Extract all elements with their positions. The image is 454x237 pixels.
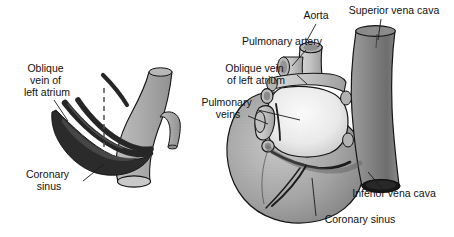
svc-top-opening — [356, 26, 396, 37]
label-line: Pulmonary — [201, 96, 252, 108]
label-oblique-vein-left-atrium-right: Oblique vein of left atrium — [225, 62, 286, 86]
label-coronary-sinus-right: Coronary sinus — [325, 213, 396, 225]
label-line: vein of — [30, 74, 61, 86]
figure-canvas: Oblique vein of left atrium Coronary sin… — [0, 0, 454, 237]
label-line: Coronary — [26, 168, 70, 180]
label-line: Oblique vein — [225, 62, 284, 74]
label-aorta: Aorta — [303, 9, 328, 21]
anatomical-figure: Oblique vein of left atrium Coronary sin… — [0, 0, 454, 237]
right-pulmonary-vein-lower — [343, 133, 354, 147]
label-superior-vena-cava: Superior vena cava — [349, 4, 440, 16]
label-inferior-vena-cava: Inferior vena cava — [352, 187, 436, 199]
label-line: Superior vena cava — [349, 4, 440, 16]
label-line: Pulmonary artery — [242, 35, 323, 47]
label-oblique-vein-left-atrium: Oblique vein of left atrium — [24, 62, 70, 98]
pulmonary-vein-lumen-upper — [264, 92, 270, 100]
label-line: sinus — [37, 180, 62, 192]
label-line: Aorta — [303, 9, 328, 21]
label-line: Oblique — [27, 62, 63, 74]
label-line: Inferior vena cava — [352, 187, 436, 199]
right-pulmonary-vein-upper — [341, 91, 352, 105]
label-line: veins — [216, 108, 241, 120]
label-line: of left atrium — [227, 74, 285, 86]
label-pulmonary-artery: Pulmonary artery — [242, 35, 323, 47]
label-line: Coronary sinus — [325, 213, 396, 225]
left-ivc-bottom-opening — [118, 176, 151, 187]
left-branch-opening — [168, 145, 177, 149]
label-line: left atrium — [24, 86, 70, 98]
left-ivc-top-opening — [149, 68, 172, 76]
